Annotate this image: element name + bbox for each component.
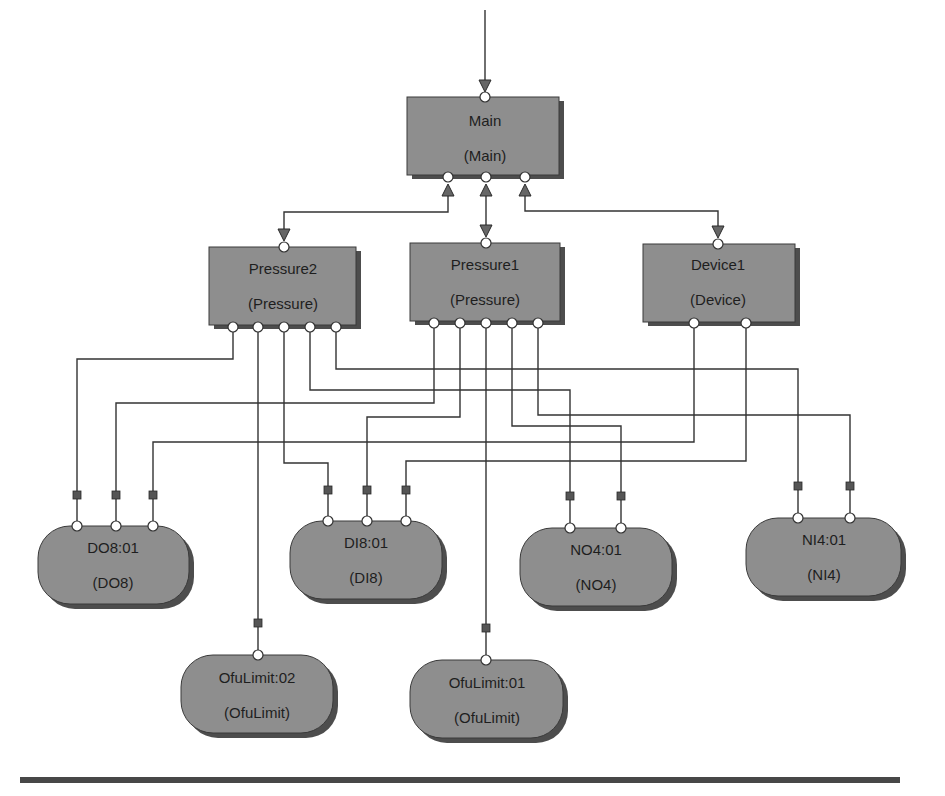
wire-marker	[794, 482, 802, 490]
node-body	[290, 521, 442, 599]
wire-marker	[363, 486, 371, 494]
wire-pressure2-di8[interactable]	[284, 332, 328, 516]
wire-marker	[566, 492, 574, 500]
input-port[interactable]	[362, 516, 372, 526]
node-type: (Pressure)	[450, 291, 520, 308]
output-port[interactable]	[520, 172, 530, 182]
input-port[interactable]	[323, 516, 333, 526]
node-name: Pressure1	[451, 256, 519, 273]
output-port[interactable]	[741, 318, 751, 328]
wire-pressure2-no4[interactable]	[310, 332, 570, 523]
node-body	[520, 528, 672, 606]
node-pressure2[interactable]: Pressure2 (Pressure)	[209, 242, 361, 332]
node-body	[38, 526, 189, 604]
output-port[interactable]	[689, 318, 699, 328]
node-body	[746, 518, 901, 596]
input-port[interactable]	[565, 523, 575, 533]
input-port[interactable]	[481, 655, 491, 665]
wire-marker	[254, 619, 262, 627]
output-port[interactable]	[253, 322, 263, 332]
node-name: Main	[469, 112, 502, 129]
input-port[interactable]	[793, 513, 803, 523]
node-type: (NI4)	[807, 566, 840, 583]
node-body	[410, 660, 563, 738]
arrow-down-icon	[480, 225, 492, 237]
wire-marker	[846, 482, 854, 490]
node-name: NI4:01	[802, 531, 846, 548]
node-main[interactable]: Main (Main)	[407, 92, 564, 182]
output-port[interactable]	[533, 318, 543, 328]
output-port[interactable]	[507, 318, 517, 328]
node-di8[interactable]: DI8:01 (DI8)	[290, 516, 447, 604]
node-type: (Pressure)	[248, 295, 318, 312]
node-type: (OfuLimit)	[454, 709, 520, 726]
node-do8[interactable]: DO8:01 (DO8)	[38, 521, 194, 609]
arrow-up-icon	[442, 184, 454, 196]
node-type: (DI8)	[349, 569, 382, 586]
wire-pressure1-di8[interactable]	[367, 328, 460, 516]
input-port[interactable]	[616, 523, 626, 533]
node-body	[209, 247, 356, 325]
output-port[interactable]	[455, 318, 465, 328]
wire-device1-di8[interactable]	[406, 328, 746, 516]
bottom-divider	[20, 777, 900, 783]
output-port[interactable]	[331, 322, 341, 332]
arrow-up-icon	[480, 184, 492, 196]
wire-marker	[149, 491, 157, 499]
input-port[interactable]	[72, 521, 82, 531]
node-name: OfuLimit:02	[219, 669, 296, 686]
hierarchy-diagram: Main (Main) Pressure2 (Pressure) Pressur…	[0, 0, 945, 796]
wire-marker	[402, 486, 410, 494]
node-ofulimit01[interactable]: OfuLimit:01 (OfuLimit)	[410, 655, 568, 743]
node-type: (NO4)	[576, 576, 617, 593]
io-wires	[77, 328, 850, 655]
node-ofulimit02[interactable]: OfuLimit:02 (OfuLimit)	[181, 650, 338, 738]
wire-marker	[73, 491, 81, 499]
link-main-pressure2[interactable]	[284, 192, 448, 232]
node-body	[181, 655, 333, 733]
arrow-up-icon	[519, 184, 531, 196]
node-type: (DO8)	[93, 574, 134, 591]
output-port[interactable]	[305, 322, 315, 332]
node-name: Pressure2	[249, 260, 317, 277]
input-port[interactable]	[253, 650, 263, 660]
node-name: OfuLimit:01	[449, 674, 526, 691]
node-name: DO8:01	[87, 539, 139, 556]
input-port[interactable]	[148, 521, 158, 531]
wire-pressure1-do8[interactable]	[116, 328, 434, 521]
node-body	[410, 243, 560, 321]
wire-marker	[482, 624, 490, 632]
output-port[interactable]	[481, 172, 491, 182]
input-port[interactable]	[713, 239, 723, 249]
arrow-down-icon	[278, 229, 290, 241]
input-port[interactable]	[480, 92, 490, 102]
input-port[interactable]	[481, 238, 491, 248]
wire-marker	[617, 492, 625, 500]
node-type: (Main)	[464, 147, 507, 164]
arrow-down-icon	[479, 80, 491, 92]
wire-marker	[324, 486, 332, 494]
output-port[interactable]	[481, 318, 491, 328]
node-pressure1[interactable]: Pressure1 (Pressure)	[410, 238, 565, 328]
node-name: NO4:01	[570, 541, 622, 558]
input-port[interactable]	[401, 516, 411, 526]
output-port[interactable]	[279, 322, 289, 332]
node-type: (Device)	[690, 291, 746, 308]
link-main-device1[interactable]	[525, 192, 718, 230]
input-port[interactable]	[845, 513, 855, 523]
output-port[interactable]	[228, 322, 238, 332]
arrow-down-icon	[712, 226, 724, 238]
node-device1[interactable]: Device1 (Device)	[643, 239, 800, 328]
output-port[interactable]	[429, 318, 439, 328]
node-type: (OfuLimit)	[224, 704, 290, 721]
node-name: Device1	[691, 256, 745, 273]
node-name: DI8:01	[344, 534, 388, 551]
input-port[interactable]	[111, 521, 121, 531]
node-no4[interactable]: NO4:01 (NO4)	[520, 523, 677, 611]
wire-marker	[112, 491, 120, 499]
node-ni4[interactable]: NI4:01 (NI4)	[746, 513, 906, 601]
output-port[interactable]	[443, 172, 453, 182]
input-port[interactable]	[279, 242, 289, 252]
wire-device1-do8[interactable]	[153, 328, 694, 521]
